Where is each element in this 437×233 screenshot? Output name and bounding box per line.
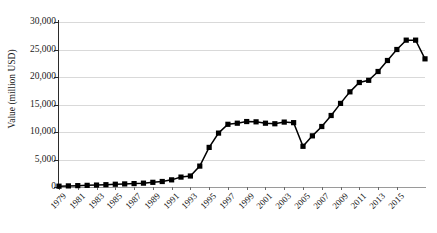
x-tick-mark	[265, 187, 266, 190]
x-tick-mark	[284, 187, 285, 190]
x-tick-mark	[190, 187, 191, 190]
x-tick-mark	[115, 187, 116, 190]
x-tick-mark	[341, 187, 342, 190]
x-tick-mark	[378, 187, 379, 190]
x-tick-mark	[134, 187, 135, 190]
x-tick-mark	[322, 187, 323, 190]
x-tick-mark	[397, 187, 398, 190]
x-tick-mark	[97, 187, 98, 190]
x-tick-mark	[209, 187, 210, 190]
x-tick-mark	[247, 187, 248, 190]
x-tick-mark	[78, 187, 79, 190]
x-tick-mark	[172, 187, 173, 190]
x-axis-labels: 1979198119831985198719891991199319951997…	[0, 0, 437, 233]
x-tick-mark	[228, 187, 229, 190]
chart-container: Value (million USD) 30,00025,00020,00015…	[0, 0, 437, 233]
x-tick-mark	[359, 187, 360, 190]
x-tick-mark	[303, 187, 304, 190]
x-tick-mark	[153, 187, 154, 190]
x-tick-mark	[59, 187, 60, 190]
